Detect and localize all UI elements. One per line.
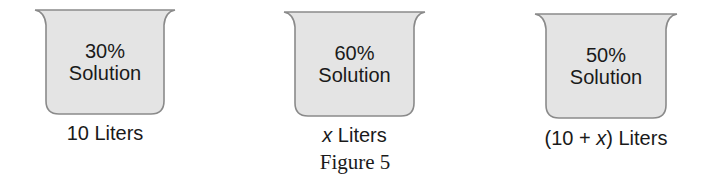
concentration-percent: 30% bbox=[34, 40, 176, 62]
volume-suffix: 10 Liters bbox=[67, 122, 144, 144]
figure-caption: Figure 5 bbox=[255, 151, 455, 173]
beaker-50-percent: 50% Solution bbox=[534, 13, 678, 119]
beaker-content-text: 30% Solution bbox=[34, 40, 176, 84]
volume-label: 10 Liters bbox=[34, 123, 176, 143]
mixture-figure: 30% Solution 10 Liters 60% Solution x Li… bbox=[0, 0, 703, 182]
volume-prefix: (10 + bbox=[545, 127, 597, 149]
beaker-content-text: 50% Solution bbox=[534, 44, 678, 88]
beaker-content-text: 60% Solution bbox=[283, 42, 426, 86]
solution-label: Solution bbox=[34, 62, 176, 84]
volume-suffix: Liters bbox=[332, 124, 386, 146]
volume-label: x Liters bbox=[283, 125, 426, 145]
concentration-percent: 60% bbox=[283, 42, 426, 64]
concentration-percent: 50% bbox=[534, 44, 678, 66]
volume-suffix: ) Liters bbox=[606, 127, 667, 149]
volume-variable: x bbox=[596, 127, 606, 149]
solution-label: Solution bbox=[534, 66, 678, 88]
volume-variable: x bbox=[322, 124, 332, 146]
beaker-30-percent: 30% Solution bbox=[34, 9, 176, 115]
solution-label: Solution bbox=[283, 64, 426, 86]
volume-label: (10 + x) Liters bbox=[534, 128, 678, 148]
beaker-60-percent: 60% Solution bbox=[283, 11, 426, 117]
